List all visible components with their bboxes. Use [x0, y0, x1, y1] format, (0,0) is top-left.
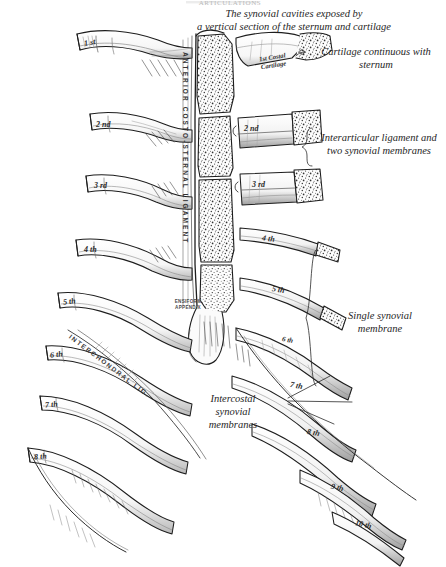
rib-label-right-2: 2 nd	[244, 124, 258, 133]
rib-label-right-6: 6 th	[281, 335, 293, 345]
label-cartilage-continuous: Cartilage continuous with sternum	[308, 46, 444, 72]
rib-label-left-3: 3 rd	[94, 181, 107, 190]
figure-caption-top: The synovial cavities exposed by a verti…	[150, 8, 438, 34]
rib-label-right-5: 5 th	[271, 284, 285, 295]
label-anterior-costo-sternal-ligament: ANTERIOR COSTO-STERNAL LIGAMENT	[182, 52, 189, 244]
xiphoid-process	[188, 307, 224, 364]
rib-label-left-7: 7 th	[45, 399, 58, 409]
label-ensiform-appendix: ENSIFORM APPENDIX	[166, 299, 210, 310]
rib-label-left-8: 8 th	[34, 451, 47, 461]
running-header: ARTICULATIONS	[140, 0, 320, 5]
label-single-synovial-membrane: Single synovial membrane	[316, 310, 444, 336]
rib-label-left-1: 1 st	[83, 37, 96, 48]
rib-label-left-6: 6 th	[50, 349, 64, 359]
label-intercostal-synovial-membranes: Intercostal synovial membranes	[180, 393, 286, 431]
anatomical-illustration	[0, 0, 446, 567]
label-interarticular-ligament: Interarticular ligament and two synovial…	[312, 132, 446, 158]
rib-label-left-5: 5 th	[62, 296, 76, 307]
rib-label-left-4: 4 th	[84, 245, 97, 254]
rib-label-left-2: 2 nd	[96, 120, 110, 129]
rib-label-right-4: 4 th	[261, 233, 275, 243]
rib-label-right-3: 3 rd	[252, 180, 265, 189]
figure-page: ARTICULATIONS The synovial cavities expo…	[0, 0, 446, 567]
right-ribs	[232, 32, 416, 566]
left-ribs	[28, 31, 206, 552]
